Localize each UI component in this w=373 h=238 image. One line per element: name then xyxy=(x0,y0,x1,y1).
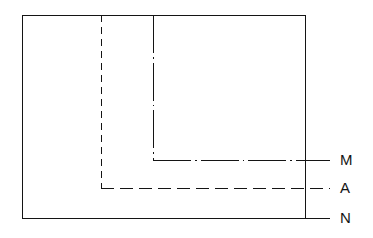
label-m: M xyxy=(340,152,353,167)
figure-canvas: M A N xyxy=(0,0,373,238)
label-a: A xyxy=(340,180,350,195)
line-drawing-svg xyxy=(0,0,373,238)
label-n: N xyxy=(340,210,351,225)
